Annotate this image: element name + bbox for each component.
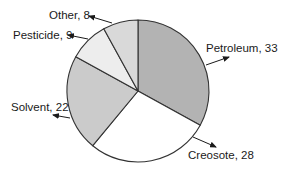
- callout-arrow-petroleum: [206, 57, 229, 65]
- slice-label-pesticide: Pesticide, 9: [13, 29, 72, 41]
- callout-arrow-other: [89, 16, 112, 23]
- slice-label-other: Other, 8: [49, 9, 90, 21]
- pie-chart: Petroleum, 33Creosote, 28Solvent, 22Pest…: [0, 0, 282, 172]
- callout-arrow-solvent: [53, 115, 70, 118]
- pie-slices: [67, 20, 209, 162]
- callout-arrow-creosote: [193, 137, 216, 147]
- pie-chart-canvas: Petroleum, 33Creosote, 28Solvent, 22Pest…: [0, 0, 282, 172]
- slice-label-solvent: Solvent, 22: [11, 101, 69, 113]
- slice-label-petroleum: Petroleum, 33: [206, 42, 278, 54]
- slice-label-creosote: Creosote, 28: [188, 149, 254, 161]
